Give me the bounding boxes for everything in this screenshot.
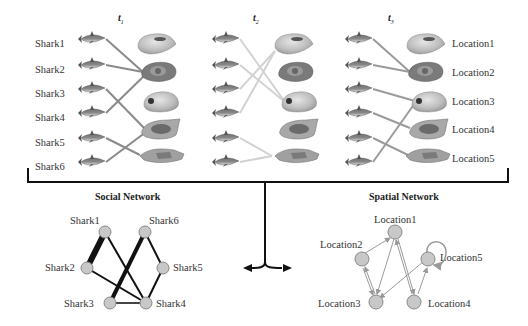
t3-links [373,39,415,162]
arrow-left-icon [243,264,252,272]
shark-icons-t1 [78,31,105,167]
t2-links [240,39,285,162]
arrow-right-icon [283,264,292,272]
diagram-graphics [0,0,528,326]
shark-icons-t3 [345,31,372,167]
shark-icons-t2 [212,31,239,167]
brace [28,168,508,268]
figure: t1 t2 t3 Shark1 Shark2 Shark3 Shark4 Sha… [0,0,528,326]
social-network-edges [87,232,163,303]
location-icons-t1 [138,34,184,163]
spatial-network-edges [362,238,427,298]
location-icons-t3 [406,34,450,163]
t1-links [106,39,146,162]
spatial-network-nodes [355,225,435,309]
